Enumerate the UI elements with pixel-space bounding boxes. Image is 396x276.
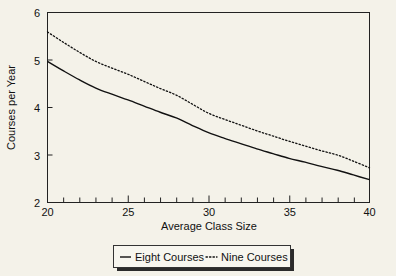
x-tick-label-30: 30 [203, 206, 215, 218]
y-tick-label-2: 2 [34, 197, 40, 209]
x-tick-label-40: 40 [363, 206, 375, 218]
y-tick-label-4: 4 [34, 102, 40, 114]
line-chart: 6 5 4 3 2 Courses per Year [0, 0, 396, 276]
y-tick-label-6: 6 [34, 7, 40, 19]
legend-label-eight-courses: Eight Courses [135, 251, 205, 263]
x-tick-label-20: 20 [41, 206, 53, 218]
legend-label-nine-courses: Nine Courses [221, 251, 288, 263]
x-axis-title: Average Class Size [161, 220, 257, 232]
y-tick-label-5: 5 [34, 55, 40, 67]
y-tick-label-3: 3 [34, 150, 40, 162]
chart-background [0, 0, 396, 276]
x-tick-label-25: 25 [122, 206, 134, 218]
chart-container: 6 5 4 3 2 Courses per Year [0, 0, 396, 276]
x-tick-label-35: 35 [284, 206, 296, 218]
legend: Eight Courses Nine Courses [114, 246, 295, 272]
y-axis-title: Courses per Year [5, 65, 17, 150]
